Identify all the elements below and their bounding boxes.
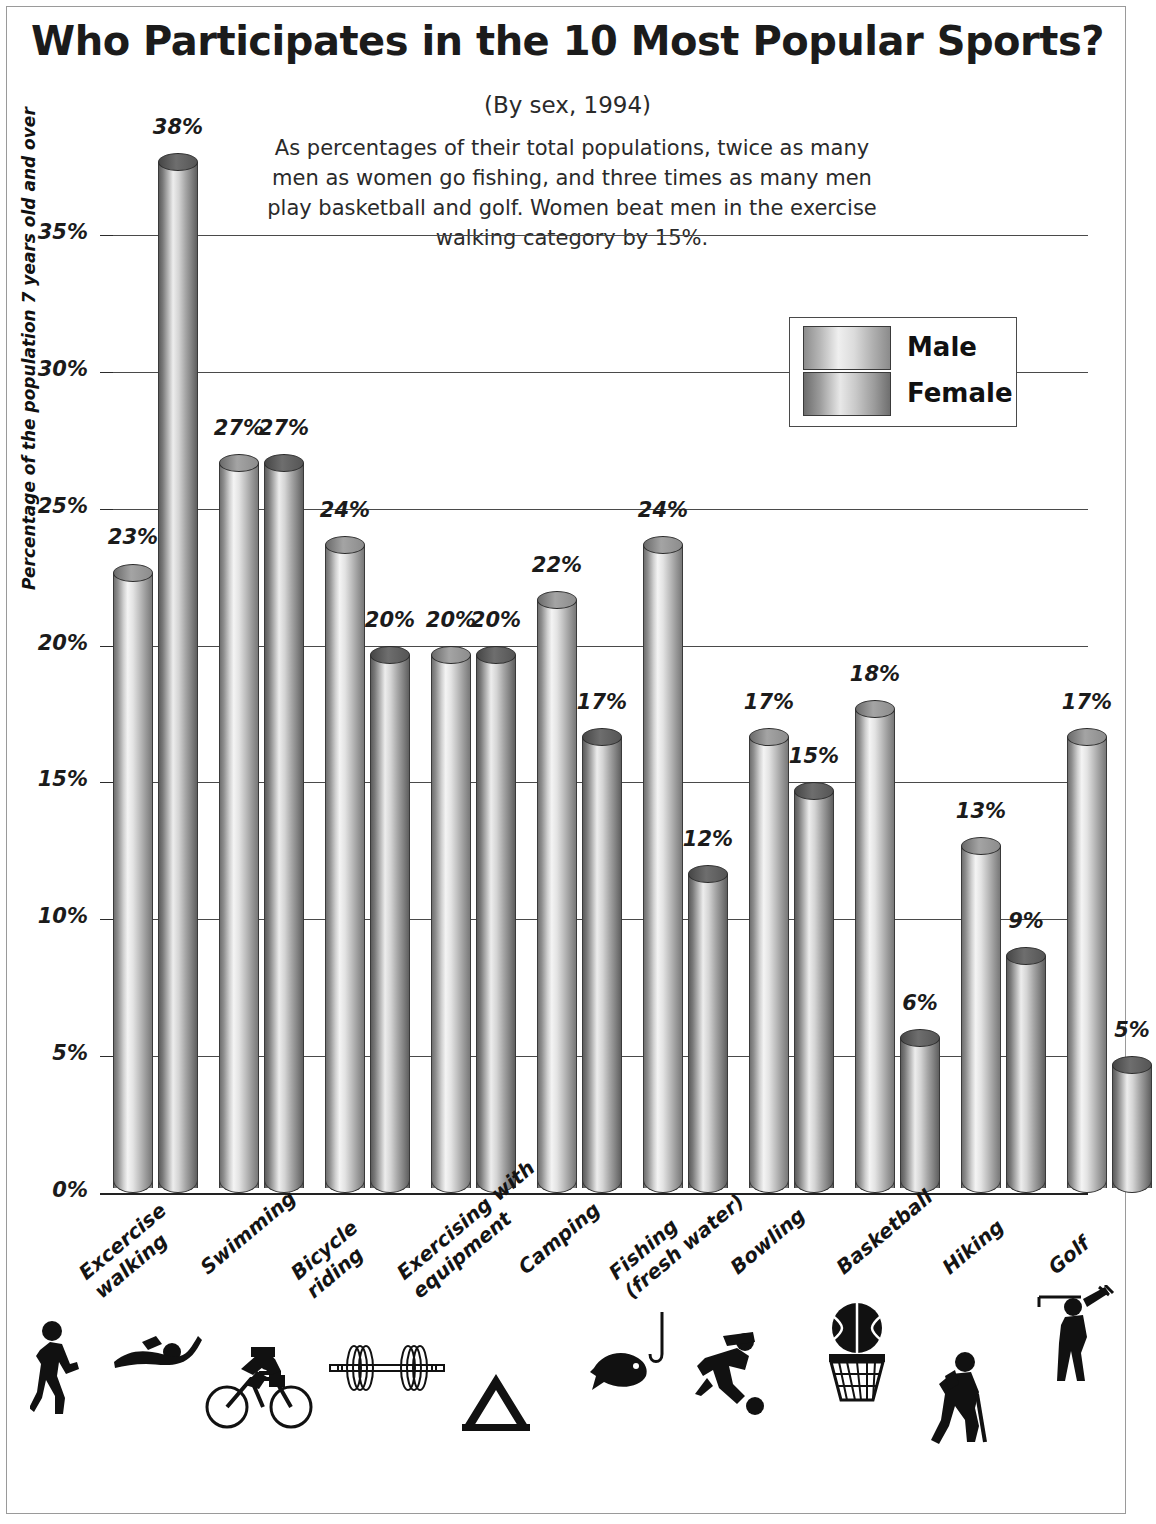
legend-label-male: Male <box>907 332 977 362</box>
bar-female[interactable] <box>1112 1056 1152 1193</box>
fish-hook-icon <box>588 1310 680 1396</box>
y-tick-label: 5% <box>0 1041 88 1065</box>
bar-value-label: 17% <box>734 690 804 714</box>
bar-value-label: 27% <box>249 416 319 440</box>
bar-value-label: 18% <box>840 662 910 686</box>
bar-foot <box>219 1180 259 1193</box>
gridline <box>113 646 1088 647</box>
bar-value-label: 17% <box>1052 690 1122 714</box>
bar-female[interactable] <box>1006 947 1046 1193</box>
y-tick-label: 30% <box>0 357 88 381</box>
basketball-hoop-icon <box>815 1300 899 1410</box>
bar-cap <box>1006 947 1046 965</box>
bar-body <box>431 655 471 1188</box>
bar-male[interactable] <box>219 454 259 1193</box>
bar-cap <box>1067 728 1107 746</box>
bar-female[interactable] <box>370 646 410 1193</box>
gridline <box>113 509 1088 510</box>
bar-body <box>476 655 516 1188</box>
bar-body <box>855 709 895 1188</box>
golfer-icon <box>1035 1285 1115 1395</box>
bar-body <box>582 737 622 1188</box>
bar-value-label: 6% <box>885 991 955 1015</box>
bar-male[interactable] <box>1067 728 1107 1193</box>
bar-foot <box>855 1180 895 1193</box>
bar-foot <box>1112 1180 1152 1193</box>
bar-male[interactable] <box>325 536 365 1193</box>
y-tick-label: 20% <box>0 631 88 655</box>
bar-cap <box>219 454 259 472</box>
chart-plot-area: 0%5%10%15%20%25%30%35% 23%38%27%27%24%20… <box>113 160 1088 1193</box>
bar-foot <box>1006 1180 1046 1193</box>
bar-cap <box>113 564 153 582</box>
bar-male[interactable] <box>431 646 471 1193</box>
bar-foot <box>158 1180 198 1193</box>
bar-female[interactable] <box>582 728 622 1193</box>
bar-cap <box>158 153 198 171</box>
y-tick-label: 35% <box>0 220 88 244</box>
legend-item-female[interactable]: Female <box>803 372 1008 418</box>
bar-male[interactable] <box>749 728 789 1193</box>
bar-body <box>794 791 834 1188</box>
bar-cap <box>476 646 516 664</box>
bar-female[interactable] <box>476 646 516 1193</box>
bar-value-label: 24% <box>628 498 698 522</box>
bar-male[interactable] <box>537 591 577 1193</box>
bicycle-icon <box>205 1345 313 1431</box>
bar-foot <box>325 1180 365 1193</box>
bar-male[interactable] <box>961 837 1001 1193</box>
tent-icon <box>460 1372 532 1434</box>
y-axis-title: Percentage of the population 7 years old… <box>19 60 39 590</box>
bar-value-label: 24% <box>310 498 380 522</box>
bar-female[interactable] <box>900 1029 940 1193</box>
bar-body <box>961 846 1001 1188</box>
x-axis-baseline <box>100 1193 1088 1195</box>
bar-foot <box>113 1180 153 1193</box>
bar-female[interactable] <box>794 782 834 1193</box>
bar-female[interactable] <box>688 865 728 1193</box>
bar-female[interactable] <box>264 454 304 1193</box>
bar-value-label: 17% <box>567 690 637 714</box>
y-tick-mark <box>100 919 113 920</box>
legend-swatch-female <box>803 372 891 416</box>
y-tick-label: 25% <box>0 494 88 518</box>
bar-value-label: 20% <box>355 608 425 632</box>
bar-foot <box>370 1180 410 1193</box>
bar-cap <box>582 728 622 746</box>
bar-body <box>1112 1065 1152 1188</box>
bar-male[interactable] <box>643 536 683 1193</box>
bar-cap <box>370 646 410 664</box>
bar-body <box>264 463 304 1188</box>
legend-item-male[interactable]: Male <box>803 326 1008 372</box>
bar-body <box>113 573 153 1189</box>
barbell-icon <box>328 1340 446 1396</box>
bar-body <box>749 737 789 1188</box>
bar-body <box>537 600 577 1188</box>
y-tick-mark <box>100 782 113 783</box>
y-tick-label: 10% <box>0 904 88 928</box>
bar-body <box>370 655 410 1188</box>
gridline <box>113 235 1088 236</box>
bar-male[interactable] <box>113 564 153 1194</box>
y-tick-mark <box>100 1056 113 1057</box>
bar-cap <box>537 591 577 609</box>
bar-body <box>1067 737 1107 1188</box>
y-tick-label: 15% <box>0 767 88 791</box>
y-tick-mark <box>100 509 113 510</box>
bar-cap <box>749 728 789 746</box>
bar-body <box>643 545 683 1188</box>
bar-foot <box>582 1180 622 1193</box>
bar-body <box>1006 956 1046 1188</box>
bar-cap <box>264 454 304 472</box>
bar-cap <box>325 536 365 554</box>
bar-value-label: 9% <box>991 909 1061 933</box>
bar-value-label: 5% <box>1097 1018 1156 1042</box>
legend: Male Female <box>789 317 1017 427</box>
bar-foot <box>749 1180 789 1193</box>
y-tick-mark <box>100 372 113 373</box>
walking-icon <box>30 1320 84 1416</box>
bar-foot <box>431 1180 471 1193</box>
bar-foot <box>794 1180 834 1193</box>
bar-male[interactable] <box>855 700 895 1193</box>
bar-female[interactable] <box>158 153 198 1193</box>
